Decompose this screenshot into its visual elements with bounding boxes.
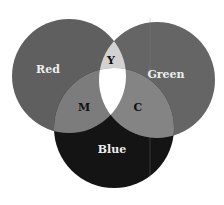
label-cyan: C	[134, 101, 143, 114]
rgb-venn-diagram: Red Green Blue Y M C	[0, 0, 224, 205]
label-green: Green	[147, 68, 184, 81]
label-red: Red	[36, 63, 60, 76]
label-blue: Blue	[98, 143, 126, 156]
label-yellow: Y	[106, 54, 115, 67]
label-magenta: M	[78, 101, 90, 114]
